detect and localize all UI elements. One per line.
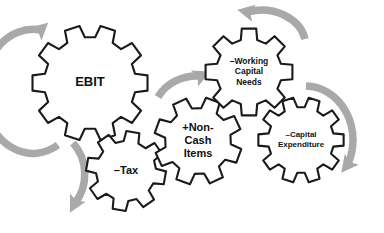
gear-flow-diagram: EBIT–Tax+Non-CashItems–WorkingCapitalNee… — [0, 0, 384, 233]
gear-label-line: Needs — [236, 77, 262, 87]
gear-label-line: –Capital — [285, 130, 316, 139]
arrow-ebit-to-tax — [73, 143, 85, 203]
gear-label-tax: –Tax — [114, 164, 139, 176]
gear-label-line: +Non- — [182, 121, 214, 133]
gear-label-ebit: EBIT — [75, 74, 105, 89]
gear-label-line: EBIT — [75, 74, 105, 89]
gear-label-line: Capital — [235, 66, 263, 76]
arrow-left-up-head — [30, 16, 54, 40]
gear-label-line: Cash — [185, 134, 212, 146]
gear-label-line: –Working — [230, 56, 269, 66]
gear-label-line: Expenditure — [278, 140, 325, 149]
gear-label-non-cash-items: +Non-CashItems — [182, 121, 214, 159]
arrow-right-down-head — [334, 154, 358, 178]
gear-label-line: –Tax — [114, 164, 139, 176]
gears-layer — [33, 26, 344, 211]
gear-label-line: Items — [184, 147, 213, 159]
gear-diagram-canvas: EBIT–Tax+Non-CashItems–WorkingCapitalNee… — [0, 0, 384, 233]
arrow-tax-to-noncash — [158, 76, 200, 97]
